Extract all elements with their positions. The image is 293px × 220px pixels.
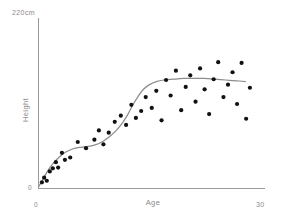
x-axis-zero-label: 0 xyxy=(34,201,38,208)
data-point xyxy=(230,70,234,74)
data-point xyxy=(169,93,173,97)
data-point xyxy=(119,114,123,118)
x-axis-title: Age xyxy=(146,198,161,207)
data-point xyxy=(150,106,154,110)
data-point xyxy=(113,120,117,124)
data-point xyxy=(198,66,202,70)
growth-chart: 220cm 0 0 30 Age Height xyxy=(0,0,293,220)
data-point xyxy=(216,60,220,64)
data-point xyxy=(92,138,96,142)
data-point xyxy=(154,89,158,93)
data-point xyxy=(212,77,216,81)
data-point xyxy=(54,160,58,164)
data-point xyxy=(124,123,128,127)
fitted-growth-curve xyxy=(39,78,246,187)
data-point xyxy=(203,87,207,91)
data-point xyxy=(45,179,49,183)
data-point xyxy=(48,169,52,173)
data-point xyxy=(68,155,72,159)
data-point xyxy=(248,86,252,90)
data-point xyxy=(184,85,188,89)
data-point xyxy=(129,103,133,107)
data-point xyxy=(97,128,101,132)
data-point xyxy=(174,69,178,73)
data-point xyxy=(207,112,211,116)
data-point xyxy=(63,158,67,162)
data-point xyxy=(226,83,230,87)
data-point xyxy=(164,78,168,82)
data-point xyxy=(107,131,111,135)
data-point xyxy=(56,165,60,169)
data-point xyxy=(101,142,105,146)
x-axis-max-label: 30 xyxy=(256,201,265,208)
y-axis-title: Height xyxy=(21,97,30,122)
data-point xyxy=(193,100,197,104)
data-point xyxy=(60,151,64,155)
data-point xyxy=(235,102,239,106)
data-point xyxy=(159,118,163,122)
data-point xyxy=(51,166,55,170)
data-point xyxy=(244,117,248,121)
data-point xyxy=(40,180,44,184)
y-axis-max-label: 220cm xyxy=(12,9,35,16)
data-point xyxy=(139,109,143,113)
data-point xyxy=(188,73,192,77)
data-point xyxy=(76,140,80,144)
data-point xyxy=(221,95,225,99)
data-point xyxy=(239,61,243,65)
data-point xyxy=(84,146,88,150)
chart-canvas: 220cm 0 0 30 Age Height xyxy=(0,0,293,220)
data-point xyxy=(144,95,148,99)
scatter-points-group xyxy=(40,60,252,184)
y-axis-zero-label: 0 xyxy=(28,184,32,191)
data-point xyxy=(134,116,138,120)
data-point xyxy=(179,108,183,112)
